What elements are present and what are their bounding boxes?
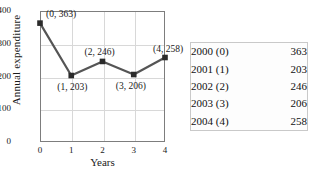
x-tick-label: 0 xyxy=(30,145,50,155)
data-point-label: (4, 258) xyxy=(153,44,183,54)
data-point-label: (0, 363) xyxy=(46,9,76,19)
table-cell-value: 258 xyxy=(272,113,307,130)
y-tick-label: 400 xyxy=(0,5,11,15)
data-table-body: 2000 (0)3632001 (1)2032002 (2)2462003 (3… xyxy=(191,43,307,130)
table-row: 2000 (0)363 xyxy=(191,43,307,60)
table-cell-value: 206 xyxy=(272,95,307,112)
table-cell-year: 2004 (4) xyxy=(191,113,272,130)
data-table: 2000 (0)3632001 (1)2032002 (2)2462003 (3… xyxy=(191,43,307,130)
table-cell-value: 363 xyxy=(272,43,307,60)
line-chart: Annual expenditure 4003002001000 (0, 363… xyxy=(0,0,178,171)
y-tick-label: 100 xyxy=(0,103,11,113)
data-point-marker xyxy=(162,55,168,61)
table-cell-value: 203 xyxy=(272,60,307,77)
data-point-marker xyxy=(68,73,74,79)
table-row: 2002 (2)246 xyxy=(191,78,307,95)
data-point-marker xyxy=(131,72,137,78)
data-point-label: (2, 246) xyxy=(85,47,115,57)
x-tick-label: 3 xyxy=(124,145,144,155)
data-point-marker xyxy=(37,20,43,26)
x-axis-title: Years xyxy=(40,156,165,168)
figure-root: Annual expenditure 4003002001000 (0, 363… xyxy=(0,0,314,171)
table-row: 2003 (3)206 xyxy=(191,95,307,112)
x-tick-label: 1 xyxy=(61,145,81,155)
x-tick-label: 4 xyxy=(155,145,175,155)
y-tick-label: 200 xyxy=(0,71,11,81)
data-series xyxy=(40,11,165,142)
data-point-marker xyxy=(100,59,106,65)
table-row: 2001 (1)203 xyxy=(191,60,307,77)
data-point-label: (3, 206) xyxy=(116,81,146,91)
data-table-panel: 2000 (0)3632001 (1)2032002 (2)2462003 (3… xyxy=(190,42,308,131)
y-tick-label: 300 xyxy=(0,38,11,48)
table-row: 2004 (4)258 xyxy=(191,113,307,130)
table-cell-value: 246 xyxy=(272,78,307,95)
x-tick-label: 2 xyxy=(93,145,113,155)
y-axis-title: Annual expenditure xyxy=(10,0,22,120)
table-cell-year: 2000 (0) xyxy=(191,43,272,60)
table-cell-year: 2002 (2) xyxy=(191,78,272,95)
table-cell-year: 2001 (1) xyxy=(191,60,272,77)
table-cell-year: 2003 (3) xyxy=(191,95,272,112)
data-point-label: (1, 203) xyxy=(57,82,87,92)
y-tick-label: 0 xyxy=(0,136,11,146)
